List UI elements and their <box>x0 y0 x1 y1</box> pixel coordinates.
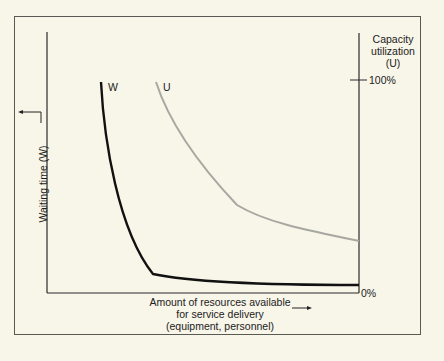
u-series-label: U <box>163 81 171 93</box>
tick-0-label: 0% <box>361 287 376 299</box>
x-axis-label-line3: (equipment, personnel) <box>120 320 320 332</box>
x-axis-label-line1: Amount of resources available <box>120 296 320 308</box>
right-axis-title-line3: (U) <box>365 57 421 69</box>
right-axis-title-line1: Capacity <box>365 33 421 45</box>
x-axis-label-line2: for service delivery <box>120 308 320 320</box>
right-axis-title-line2: utilization <box>365 45 421 57</box>
x-axis-label: Amount of resources available for servic… <box>120 296 320 332</box>
y-arrow-icon <box>18 110 41 123</box>
y-axis-label: Waiting time (W) <box>37 129 49 239</box>
w-curve <box>101 82 359 285</box>
right-axis-title: Capacity utilization (U) <box>365 33 421 69</box>
w-series-label: W <box>108 81 118 93</box>
u-curve <box>156 82 359 241</box>
tick-100-label: 100% <box>369 74 396 86</box>
